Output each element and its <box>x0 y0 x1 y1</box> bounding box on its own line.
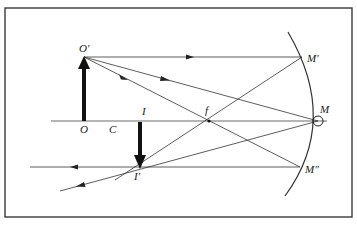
arrow-icon <box>76 182 86 187</box>
ray-diagram: O′ O C I I′ f M′ M M″ <box>0 0 357 228</box>
label-center: C <box>109 123 117 135</box>
ray-vertex-incident <box>84 57 318 121</box>
diagram-frame <box>5 8 352 217</box>
label-object-top: O′ <box>79 42 90 54</box>
label-focus: f <box>205 104 210 116</box>
label-object-base: O <box>80 123 88 135</box>
label-mirror-vertex: M <box>319 103 330 115</box>
label-image-base: I <box>141 105 147 117</box>
focus-point <box>207 119 210 122</box>
arrow-icon <box>186 55 194 60</box>
label-mirror-bottom: M″ <box>304 163 319 175</box>
arrow-icon <box>70 165 78 170</box>
label-image-tip: I′ <box>133 170 141 182</box>
label-mirror-top: M′ <box>306 52 319 64</box>
arrow-icon <box>160 76 170 81</box>
ray-focal-incident <box>84 57 300 167</box>
